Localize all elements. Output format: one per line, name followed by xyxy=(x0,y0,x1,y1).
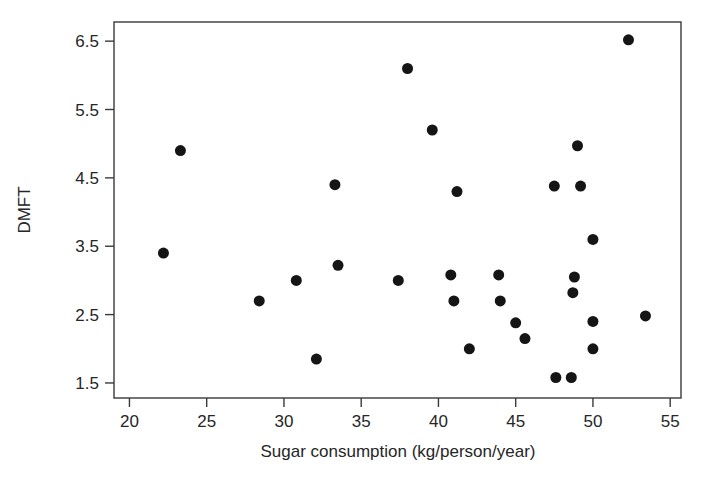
data-point xyxy=(495,295,506,306)
data-point xyxy=(175,145,186,156)
x-tick-label: 40 xyxy=(429,412,448,431)
y-tick-label: 5.5 xyxy=(75,101,99,120)
x-tick-label: 25 xyxy=(197,412,216,431)
y-tick-label: 4.5 xyxy=(75,169,99,188)
x-axis-title: Sugar consumption (kg/person/year) xyxy=(261,442,536,461)
data-point xyxy=(623,34,634,45)
data-point xyxy=(291,275,302,286)
data-point xyxy=(572,140,583,151)
data-point xyxy=(587,316,598,327)
data-point xyxy=(550,372,561,383)
plot-canvas: 2025303540455055 1.52.53.54.55.56.5 Suga… xyxy=(0,0,720,497)
data-point xyxy=(587,343,598,354)
data-point xyxy=(493,269,504,280)
data-point xyxy=(510,317,521,328)
x-tick-label: 45 xyxy=(506,412,525,431)
data-point xyxy=(427,125,438,136)
data-point xyxy=(519,333,530,344)
y-tick-label: 1.5 xyxy=(75,374,99,393)
data-point xyxy=(311,354,322,365)
data-point xyxy=(448,295,459,306)
y-tick-label: 3.5 xyxy=(75,237,99,256)
x-tick-label: 30 xyxy=(274,412,293,431)
data-point xyxy=(158,248,169,259)
x-tick-label: 20 xyxy=(120,412,139,431)
data-point xyxy=(464,343,475,354)
data-point xyxy=(393,275,404,286)
x-tick-label: 50 xyxy=(583,412,602,431)
data-point xyxy=(254,295,265,306)
data-point xyxy=(333,260,344,271)
data-point xyxy=(587,234,598,245)
data-point xyxy=(451,186,462,197)
scatter-plot-figure: 2025303540455055 1.52.53.54.55.56.5 Suga… xyxy=(0,0,720,497)
data-point xyxy=(445,269,456,280)
y-axis-title: DMFT xyxy=(15,186,34,233)
data-point xyxy=(329,179,340,190)
data-point xyxy=(567,287,578,298)
x-tick-label: 35 xyxy=(352,412,371,431)
data-point xyxy=(566,372,577,383)
x-tick-label: 55 xyxy=(661,412,680,431)
y-tick-label: 2.5 xyxy=(75,306,99,325)
data-point xyxy=(575,181,586,192)
data-point xyxy=(640,310,651,321)
data-point xyxy=(569,272,580,283)
y-tick-label: 6.5 xyxy=(75,32,99,51)
data-point xyxy=(549,181,560,192)
data-point xyxy=(402,63,413,74)
